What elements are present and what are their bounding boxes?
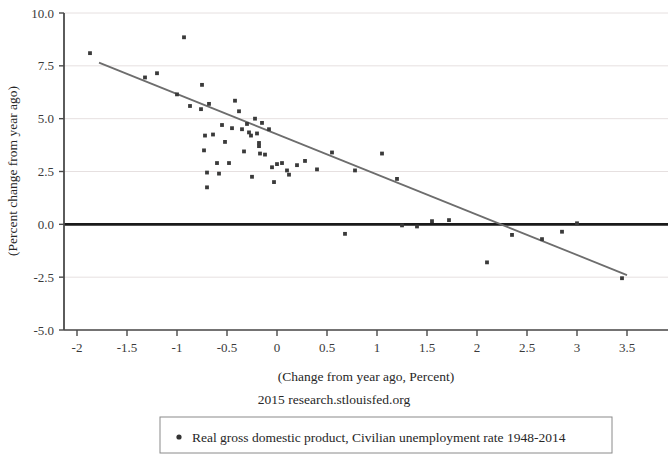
data-point	[620, 276, 624, 280]
x-tick-label: 3.5	[619, 340, 635, 355]
data-point	[267, 127, 271, 131]
data-point	[303, 159, 307, 163]
x-axis-title: (Change from year ago, Percent)	[278, 369, 455, 384]
y-tick-label: 7.5	[38, 58, 54, 73]
data-point	[240, 127, 244, 131]
y-tick-label: -5.0	[33, 323, 54, 338]
data-point	[295, 163, 299, 167]
data-point	[253, 117, 257, 121]
x-tick-label: -2	[72, 340, 83, 355]
data-point	[380, 152, 384, 156]
data-point	[430, 219, 434, 223]
data-point	[242, 150, 246, 154]
legend-label: Real gross domestic product, Civilian un…	[192, 430, 566, 445]
data-point	[230, 126, 234, 130]
data-point	[237, 109, 241, 113]
data-point	[223, 140, 227, 144]
data-point	[280, 161, 284, 165]
data-point	[155, 71, 159, 75]
x-tick-label: 2.5	[519, 340, 535, 355]
data-point	[205, 171, 209, 175]
data-point	[188, 104, 192, 108]
data-point	[270, 165, 274, 169]
y-tick-label: 5.0	[38, 111, 54, 126]
data-point	[258, 152, 262, 156]
x-tick-label: 3	[574, 340, 581, 355]
data-point	[211, 133, 215, 137]
data-point	[220, 123, 224, 127]
data-point	[315, 167, 319, 171]
x-tick-label: 1.5	[419, 340, 435, 355]
data-point	[202, 148, 206, 152]
data-point	[263, 153, 267, 157]
data-point	[215, 161, 219, 165]
data-point	[227, 161, 231, 165]
data-point	[343, 232, 347, 236]
y-tick-label: 2.5	[38, 164, 54, 179]
data-point	[285, 169, 289, 173]
y-axis-title: (Percent change from year ago)	[5, 86, 20, 256]
data-point	[203, 134, 207, 138]
data-point	[540, 237, 544, 241]
data-point	[447, 218, 451, 222]
scatter-plot: 10.07.55.02.50.0-2.5-5.0 -2-1.5-1-0.500.…	[0, 0, 668, 455]
legend-dot-icon	[176, 434, 181, 439]
data-point	[200, 83, 204, 87]
data-point	[275, 162, 279, 166]
x-tick-label: 0.5	[319, 340, 335, 355]
data-point	[400, 223, 404, 227]
data-point	[250, 175, 254, 179]
data-point	[217, 172, 221, 176]
data-point	[249, 134, 253, 138]
data-point	[182, 35, 186, 39]
x-tick-label: 0	[274, 340, 281, 355]
source-caption: 2015 research.stlouisfed.org	[258, 392, 411, 407]
data-point	[272, 180, 276, 184]
data-point	[245, 122, 249, 126]
data-point	[175, 92, 179, 96]
y-tick-label: 0.0	[38, 217, 54, 232]
x-tick-label: 2	[474, 340, 481, 355]
x-tick-label: 1	[374, 340, 381, 355]
data-point	[143, 76, 147, 80]
data-point	[88, 51, 92, 55]
data-point	[255, 132, 259, 136]
data-point	[510, 233, 514, 237]
data-point	[395, 177, 399, 181]
y-axis-ticks: 10.07.55.02.50.0-2.5-5.0	[31, 6, 64, 338]
y-tick-label: 10.0	[31, 6, 54, 21]
data-point	[205, 185, 209, 189]
x-tick-label: -1.5	[117, 340, 138, 355]
data-point	[560, 230, 564, 234]
x-tick-label: -0.5	[217, 340, 238, 355]
data-point	[575, 221, 579, 225]
data-point	[485, 260, 489, 264]
x-tick-label: -1	[172, 340, 183, 355]
chart-figure: 10.07.55.02.50.0-2.5-5.0 -2-1.5-1-0.500.…	[0, 0, 668, 455]
data-point	[287, 173, 291, 177]
data-point	[207, 102, 211, 106]
data-point	[330, 151, 334, 155]
data-point	[199, 107, 203, 111]
data-point	[353, 169, 357, 173]
x-axis-ticks: -2-1.5-1-0.500.511.522.533.5	[72, 330, 636, 355]
data-point	[257, 144, 261, 148]
data-point	[260, 121, 264, 125]
data-point	[415, 225, 419, 229]
data-point	[233, 99, 237, 103]
y-tick-label: -2.5	[33, 270, 54, 285]
